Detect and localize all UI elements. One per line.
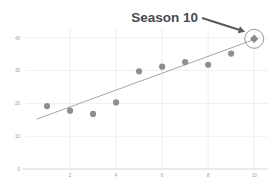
x-tick-label: 6 [161, 173, 164, 178]
y-tick-label: 40 [15, 36, 21, 41]
y-tick-label: 30 [15, 68, 21, 73]
annotation-season-10: Season 10 [131, 10, 245, 33]
data-point-group [44, 50, 234, 117]
data-point [182, 59, 188, 65]
diamond-marker-icon [250, 35, 258, 43]
annotation-label: Season 10 [131, 10, 198, 25]
data-point [228, 50, 234, 56]
y-tick-label: 0 [17, 167, 20, 172]
data-point [136, 68, 142, 74]
y-tick-label: 10 [15, 134, 21, 139]
data-point [113, 99, 119, 105]
chart-canvas: 010203040 246810 Season 10 [0, 0, 275, 189]
trend-line [37, 39, 255, 119]
x-tick-label: 4 [115, 173, 118, 178]
data-point [159, 64, 165, 70]
data-point [90, 111, 96, 117]
x-tick-label: 2 [69, 173, 72, 178]
x-tick-label: 10 [252, 173, 258, 178]
x-axis-tick-labels: 246810 [69, 173, 257, 178]
scatter-chart: 010203040 246810 Season 10 [0, 0, 275, 189]
data-point [44, 103, 50, 109]
y-axis-tick-labels: 010203040 [15, 36, 21, 172]
data-point [205, 62, 211, 68]
y-tick-label: 20 [15, 101, 21, 106]
data-point [67, 108, 73, 114]
x-tick-label: 8 [207, 173, 210, 178]
